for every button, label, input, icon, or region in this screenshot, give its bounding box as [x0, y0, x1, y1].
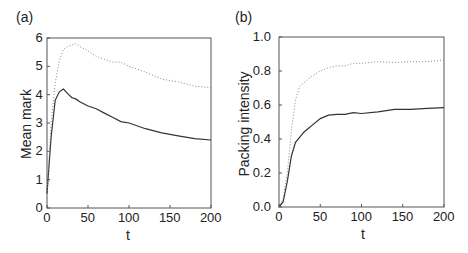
- y-tick-label: 1.0: [253, 29, 271, 44]
- y-tick-label: 5: [36, 58, 43, 73]
- x-tick-label: 0: [275, 209, 282, 224]
- x-tick-label: 0: [43, 210, 50, 225]
- y-tick-label: 0: [36, 200, 43, 215]
- y-axis-label-a: Mean mark: [18, 74, 34, 174]
- y-axis-label-b: Packing intensity: [236, 64, 252, 184]
- x-tick-label: 50: [313, 209, 327, 224]
- x-tick-label: 200: [433, 209, 455, 224]
- series-line-dotted: [47, 44, 211, 194]
- panel-b: (b) Packing intensity t 0501001502000.00…: [234, 0, 468, 253]
- x-tick-label: 100: [118, 210, 140, 225]
- y-tick-label: 1: [36, 172, 43, 187]
- y-tick-label: 4: [36, 87, 43, 102]
- x-tick-label: 200: [200, 210, 222, 225]
- x-tick-label: 150: [392, 209, 414, 224]
- y-tick-label: 0.6: [253, 97, 271, 112]
- y-tick-label: 6: [36, 30, 43, 45]
- y-tick-label: 0.0: [253, 199, 271, 214]
- series-line-solid: [279, 108, 444, 207]
- y-tick-label: 0.2: [253, 165, 271, 180]
- y-tick-label: 0.4: [253, 131, 271, 146]
- x-axis-label-b: t: [361, 226, 365, 242]
- x-axis-label-a: t: [126, 227, 130, 243]
- series-line-dotted: [279, 60, 444, 207]
- series-line-solid: [47, 89, 211, 194]
- x-tick-label: 100: [350, 209, 372, 224]
- x-tick-label: 150: [159, 210, 181, 225]
- y-tick-label: 3: [36, 115, 43, 130]
- panel-a: (a) Mean mark t 0501001502000123456: [0, 0, 234, 253]
- y-tick-label: 2: [36, 143, 43, 158]
- axes-frame: [279, 37, 444, 207]
- x-tick-label: 50: [81, 210, 95, 225]
- y-tick-label: 0.8: [253, 63, 271, 78]
